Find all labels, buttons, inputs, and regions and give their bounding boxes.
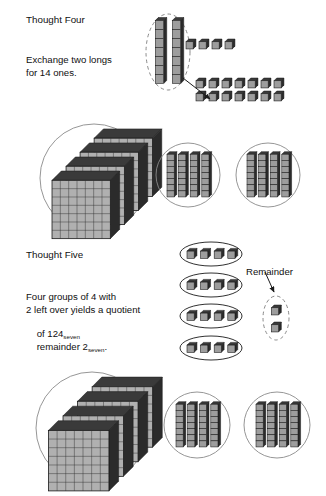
long-segment [211, 410, 218, 416]
long-segment [188, 423, 195, 429]
long-segment [268, 423, 275, 429]
long-segment [155, 48, 163, 57]
long-segment [259, 185, 266, 191]
long-segment [259, 154, 266, 160]
unit-cube [271, 305, 281, 315]
long-segment [256, 435, 263, 441]
long-side-face [263, 402, 266, 447]
long-segment [155, 39, 163, 48]
unit-cube [248, 91, 258, 101]
cube-front-face [201, 251, 208, 258]
long-segment [247, 191, 254, 197]
cube-front-face [214, 313, 221, 320]
unit-cube [235, 78, 245, 88]
long-segment [155, 30, 163, 39]
long-segment [202, 166, 209, 172]
long-segment [199, 423, 206, 429]
long-side-face [206, 402, 209, 447]
long-segment [179, 154, 186, 160]
long-segment [155, 21, 163, 30]
long-segment [256, 429, 263, 435]
long-segment [282, 191, 289, 197]
cube-front-face [214, 282, 221, 289]
long-segment [179, 185, 186, 191]
unit-cube [248, 78, 258, 88]
unit-cube [201, 342, 211, 352]
group-row2-flats-circle [36, 372, 162, 491]
cube-front-face [274, 94, 281, 101]
unit-cube [209, 91, 219, 101]
long-segment [291, 404, 298, 410]
long-segment [247, 166, 254, 172]
long-side-face [254, 152, 257, 197]
long-segment [202, 185, 209, 191]
unit-cube [228, 279, 238, 289]
long-segment [291, 410, 298, 416]
long-segment [270, 173, 277, 179]
unit-cube [187, 248, 197, 258]
long-segment [282, 166, 289, 172]
long-segment [270, 185, 277, 191]
cube-front-face [196, 81, 203, 88]
long-segment [282, 185, 289, 191]
long-segment [176, 423, 183, 429]
long-side-face [218, 402, 221, 447]
blocks-artwork [0, 0, 326, 496]
long-segment [268, 429, 275, 435]
unit-cube [212, 39, 222, 49]
long-segment [247, 179, 254, 185]
group-exchanged-fourteen-ones [196, 78, 284, 101]
long-segment [155, 57, 163, 66]
long-side-face [186, 152, 189, 197]
long-segment [199, 416, 206, 422]
cube-front-face [201, 282, 208, 289]
long-segment [211, 416, 218, 422]
cube-front-face [214, 251, 221, 258]
long-segment [188, 441, 195, 447]
long-segment [211, 441, 218, 447]
cube-front-face [248, 94, 255, 101]
long-segment [202, 173, 209, 179]
long-side-face [164, 18, 167, 84]
long-segment [179, 179, 186, 185]
unit-cube [187, 279, 197, 289]
long-segment [176, 416, 183, 422]
group-group-of-four-ones-2 [180, 273, 242, 297]
cube-front-face [187, 345, 194, 352]
long-segment [270, 191, 277, 197]
long-segment [291, 435, 298, 441]
long-segment [199, 435, 206, 441]
group-row2-longs-circle-a [164, 392, 230, 458]
long-segment [247, 154, 254, 160]
long-rod [179, 152, 189, 197]
diagram-canvas: Thought Four Exchange two longs for 14 o… [0, 0, 326, 496]
long-segment [167, 160, 174, 166]
unit-cube [209, 78, 219, 88]
long-segment [282, 179, 289, 185]
long-segment [279, 410, 286, 416]
long-side-face [289, 152, 292, 197]
long-rod [270, 152, 280, 197]
group-ring-dashed [263, 296, 289, 340]
long-segment [247, 185, 254, 191]
unit-cube [187, 310, 197, 320]
long-segment [270, 166, 277, 172]
long-segment [188, 410, 195, 416]
cube-front-face [235, 81, 242, 88]
cube-front-face [271, 308, 278, 315]
long-segment [190, 179, 197, 185]
unit-cube [214, 279, 224, 289]
flat-top-face [66, 157, 134, 166]
unit-cube [222, 91, 232, 101]
unit-cube [274, 91, 284, 101]
long-segment [199, 441, 206, 447]
long-rod [188, 402, 198, 447]
group-row1-flats-circle [40, 124, 162, 239]
long-segment [176, 429, 183, 435]
long-segment [279, 429, 286, 435]
long-side-face [197, 152, 200, 197]
long-segment [282, 154, 289, 160]
long-segment [259, 191, 266, 197]
long-segment [259, 173, 266, 179]
long-segment [282, 173, 289, 179]
